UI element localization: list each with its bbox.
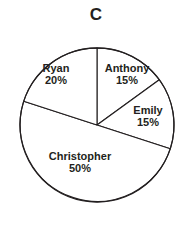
slice-label-emily-value: 15% [118,116,178,128]
slice-label-anthony-value: 15% [96,74,158,86]
slice-label-christopher: Christopher 50% [22,150,138,175]
slice-label-anthony-name: Anthony [96,62,158,74]
slice-label-christopher-name: Christopher [22,150,138,162]
slice-label-emily-name: Emily [118,104,178,116]
pie-chart: C Ryan 20% Anthony 15% Emily 15% Christo… [0,0,192,233]
slice-label-anthony: Anthony 15% [96,62,158,87]
slice-label-ryan-value: 20% [26,74,86,86]
slice-label-ryan: Ryan 20% [26,62,86,87]
slice-label-ryan-name: Ryan [26,62,86,74]
slice-label-christopher-value: 50% [22,162,138,174]
slice-label-emily: Emily 15% [118,104,178,129]
